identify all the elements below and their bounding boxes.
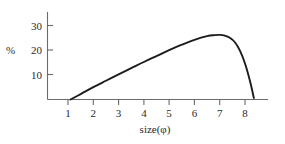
x-tick-label-7: 7 <box>217 108 223 119</box>
y-tick-label-30: 30 <box>18 20 42 31</box>
x-tick-label-5: 5 <box>166 108 172 119</box>
y-axis-title: % <box>6 45 15 56</box>
x-tick-label-6: 6 <box>192 108 198 119</box>
x-tick-label-4: 4 <box>141 108 147 119</box>
data-curve <box>71 35 254 100</box>
x-tick-label-2: 2 <box>91 108 97 119</box>
chart-figure: 30 20 10 % 1 2 3 4 5 6 7 8 size(φ) <box>0 0 285 144</box>
x-tick-label-1: 1 <box>65 108 71 119</box>
x-axis-title: size(φ) <box>140 124 171 135</box>
x-tick-label-8: 8 <box>242 108 248 119</box>
y-tick-label-10: 10 <box>18 69 42 80</box>
x-tick-label-3: 3 <box>116 108 122 119</box>
y-tick-label-20: 20 <box>18 45 42 56</box>
